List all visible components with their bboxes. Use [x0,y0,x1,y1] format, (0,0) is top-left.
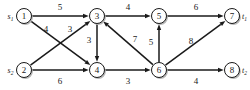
edge-3-to-5 [105,14,151,18]
edge-weights-layer: 543634375684 [44,2,199,86]
edge-6-to-5 [157,24,161,62]
node-label-7: 7 [230,11,235,21]
node-label-4: 4 [95,65,100,75]
terminal-labels-layer: s1s2t1t2 [8,12,248,76]
node-label-1: 1 [22,11,27,21]
terminal-label-t1: t1 [242,12,247,22]
node-label-3: 3 [95,11,100,21]
edge-3-to-4 [95,24,99,62]
terminal-label-s1: s1 [8,12,14,22]
edge-weight-6-7: 8 [189,36,194,46]
edge-weight-3-5: 4 [126,2,131,12]
edges-layer [31,14,226,72]
terminal-label-s2: s2 [8,66,14,76]
edge-weight-1-3: 5 [58,2,63,12]
node-1[interactable]: 1 [17,9,33,25]
node-7[interactable]: 7 [225,9,241,25]
node-label-5: 5 [157,11,162,21]
edge-6-to-8 [167,68,224,72]
edge-weight-1-4: 4 [44,24,49,34]
node-5[interactable]: 5 [152,9,168,25]
edge-weight-4-6: 3 [126,76,131,86]
node-label-8: 8 [230,65,235,75]
node-4[interactable]: 4 [90,63,106,79]
edge-weight-5-7: 6 [194,2,199,12]
edge-2-to-4 [32,68,89,72]
edge-weight-6-3: 7 [133,34,138,44]
graph-canvas: 12345678 543634375684 s1s2t1t2 [0,0,250,90]
edge-weight-3-4: 3 [87,35,92,45]
node-3[interactable]: 3 [90,9,106,25]
flow-network-diagram: 12345678 543634375684 s1s2t1t2 [0,0,250,90]
edge-weight-6-8: 4 [194,76,199,86]
edge-6-to-3 [103,21,153,64]
edge-1-to-3 [32,14,89,18]
edge-weight-2-4: 6 [58,76,63,86]
terminal-label-t2: t2 [242,66,247,76]
node-label-6: 6 [157,65,162,75]
edge-4-to-6 [105,68,151,72]
edge-6-to-7 [166,21,226,65]
edge-weight-2-3: 3 [68,24,73,34]
node-8[interactable]: 8 [225,63,241,79]
edge-5-to-7 [167,14,224,18]
edge-weight-6-5: 5 [149,37,154,47]
node-label-2: 2 [22,65,27,75]
